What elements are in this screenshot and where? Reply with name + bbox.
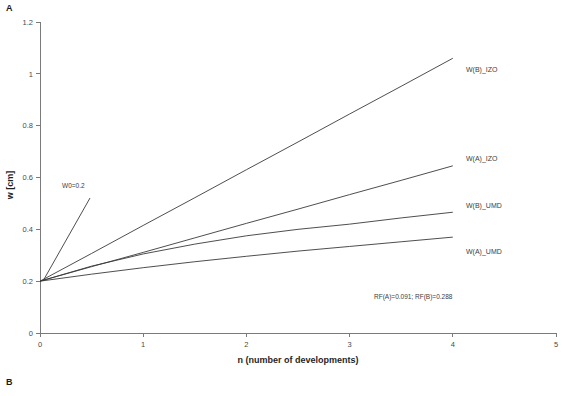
series-group	[40, 58, 453, 281]
x-tick-label: 1	[141, 340, 145, 349]
series-label: W(B)_IZO	[466, 66, 498, 74]
figure-panel-a: A B 00.20.40.60.811.2 012345 w [cm] n (n…	[0, 0, 563, 396]
series-label: W(A)_IZO	[466, 155, 498, 163]
y-tick-label: 0	[29, 329, 33, 338]
y-axis-title: w [cm]	[5, 171, 15, 201]
x-tick-label: 0	[38, 340, 42, 349]
series-line	[40, 237, 453, 281]
series-line	[40, 58, 453, 281]
x-tick-label: 2	[244, 340, 248, 349]
x-tick-label: 5	[554, 340, 558, 349]
y-tick-group: 00.20.40.60.811.2	[23, 18, 40, 338]
series-label: W(A)_UMD	[466, 248, 502, 256]
series-label: W(B)_UMD	[466, 202, 502, 210]
line-chart: 00.20.40.60.811.2 012345 w [cm] n (numbe…	[0, 0, 563, 396]
w0-annotation-group: W0=0.2	[43, 182, 90, 281]
y-tick-label: 1.2	[23, 18, 33, 27]
x-tick-group: 012345	[38, 333, 558, 349]
y-tick-label: 0.4	[23, 225, 33, 234]
y-tick-label: 0.8	[23, 121, 33, 130]
rf-annotation-label: RF(A)=0.091; RF(B)=0.288	[374, 293, 453, 301]
x-tick-label: 4	[451, 340, 455, 349]
x-axis-title: n (number of developments)	[237, 355, 358, 365]
y-tick-label: 0.2	[23, 277, 33, 286]
y-tick-label: 0.6	[23, 173, 33, 182]
x-tick-label: 3	[348, 340, 352, 349]
w0-annotation-label: W0=0.2	[62, 182, 85, 189]
series-line	[40, 212, 453, 281]
series-label-group: W(B)_IZOW(A)_IZOW(B)_UMDW(A)_UMD	[466, 66, 502, 256]
y-tick-label: 1	[29, 70, 33, 79]
